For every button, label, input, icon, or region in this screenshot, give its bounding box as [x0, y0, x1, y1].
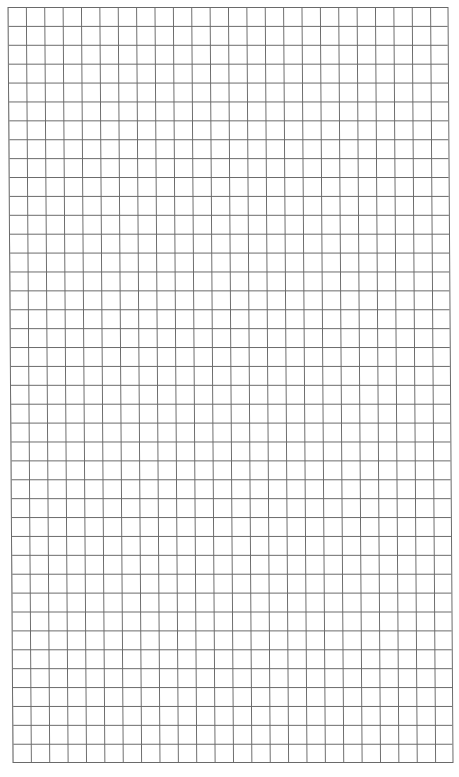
graph-paper-sheet — [7, 7, 453, 763]
square-grid — [7, 7, 453, 763]
